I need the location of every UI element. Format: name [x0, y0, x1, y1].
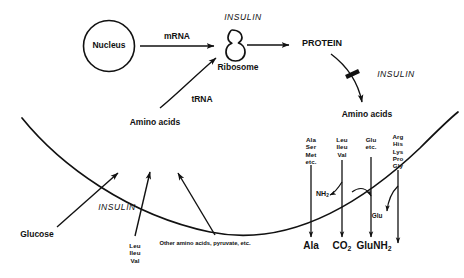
column-product-glunh2: GluNH2 — [357, 241, 392, 252]
other-substrates-label: Other amino acids, pyruvate, etc. — [159, 240, 250, 246]
col-ala-line-1: Ala — [305, 136, 316, 143]
column-arrow-co2 — [330, 160, 342, 237]
col-ala-line-3: Met — [305, 151, 316, 158]
col-arg-line-3: Lys — [393, 148, 404, 155]
col-arg-line-4: Pro — [393, 155, 404, 162]
col-arg-line-2: His — [393, 140, 404, 147]
col-ala-line-2: Ser — [305, 143, 316, 150]
column-inputs-glu: Glu etc. — [365, 136, 376, 151]
glu-transfer-label: Glu — [372, 213, 383, 220]
mrna-label: mRNA — [164, 32, 190, 41]
column-inputs-ala: Ala Ser Met etc. — [305, 136, 316, 165]
amino-acids-center-label: Amino acids — [130, 118, 181, 127]
insulin-protein-label: INSULIN — [377, 70, 415, 79]
column-arrow-glunh2 — [352, 157, 371, 237]
ribosome-shape — [226, 30, 245, 61]
column-product-ala: Ala — [303, 241, 319, 252]
col-arg-line-5: Gly — [393, 162, 404, 169]
cell-membrane-curve — [22, 112, 458, 235]
amino-acids-right-label: Amino acids — [342, 110, 393, 119]
insulin-inhibition-bar — [346, 71, 359, 77]
column-product-co2: CO2 — [333, 241, 352, 252]
insulin-ribosome-label: INSULIN — [224, 13, 262, 22]
leu-ileu-val-line-3: Val — [129, 257, 140, 264]
leu-ileu-val-uptake-label: Leu Ileu Val — [129, 242, 140, 264]
col-arg-line-1: Arg — [393, 133, 404, 140]
column-arrow-arg — [387, 170, 398, 243]
nucleus-label: Nucleus — [92, 41, 125, 50]
leu-ileu-val-line-1: Leu — [129, 242, 140, 249]
trna-label: tRNA — [191, 95, 212, 104]
protein-degradation-arrow — [331, 54, 362, 102]
col-leu-line-2: Ileu — [336, 143, 347, 150]
column-inputs-arg: Arg His Lys Pro Gly — [393, 133, 404, 170]
col-leu-line-1: Leu — [336, 136, 347, 143]
ribosome-label: Ribosome — [217, 63, 258, 72]
protein-label: PROTEIN — [302, 39, 342, 48]
col-glu-line-2: etc. — [365, 143, 376, 150]
insulin-metabolism-diagram: Nucleus mRNA INSULIN Ribosome PROTEIN IN… — [0, 0, 464, 278]
col-ala-line-4: etc. — [305, 158, 316, 165]
nh2-label: NH2 — [316, 190, 329, 198]
col-glu-line-1: Glu — [365, 136, 376, 143]
column-inputs-leu: Leu Ileu Val — [336, 136, 347, 158]
glucose-uptake-arrow — [57, 173, 118, 227]
leu-ileu-val-uptake-arrow — [135, 172, 150, 236]
insulin-membrane-label: INSULIN — [98, 203, 136, 212]
leu-ileu-val-line-2: Ileu — [129, 249, 140, 256]
col-leu-line-3: Val — [336, 151, 347, 158]
glucose-label: Glucose — [20, 230, 54, 239]
